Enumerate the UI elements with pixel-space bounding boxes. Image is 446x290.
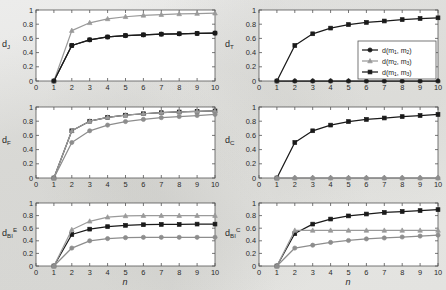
y-axis-label-subscript: F — [7, 139, 11, 146]
series-marker-circle — [418, 234, 422, 238]
y-tick-label: 1 — [29, 199, 33, 208]
series-marker-circle — [52, 176, 56, 180]
series-marker-circle — [52, 79, 56, 83]
series-marker-circle — [213, 236, 217, 240]
y-tick-label: 0.6 — [246, 131, 256, 140]
series-marker-circle — [141, 33, 145, 37]
x-tick-label: 2 — [293, 180, 297, 189]
y-tick-label: 0 — [252, 77, 256, 86]
chart-bottom-right: 01234567891000.20.40.60.81 — [223, 193, 446, 290]
x-tick-label: 2 — [70, 268, 74, 277]
y-tick-label: 0.8 — [246, 212, 256, 221]
y-tick-label: 0.8 — [246, 20, 256, 29]
y-axis-label: dBIE — [2, 229, 17, 238]
x-tick-label: 6 — [364, 268, 368, 277]
series-marker-square — [347, 214, 351, 218]
series-marker-circle — [275, 79, 279, 83]
y-tick-label: 0.4 — [23, 48, 33, 57]
x-tick-label: 9 — [418, 268, 422, 277]
x-tick-label: 1 — [52, 268, 56, 277]
x-tick-label: 3 — [311, 180, 315, 189]
x-tick-label: 7 — [382, 268, 386, 277]
y-axis-label: dF — [2, 136, 11, 145]
series-marker-circle — [159, 115, 163, 119]
x-tick-label: 5 — [123, 83, 127, 92]
x-tick-label: 3 — [88, 180, 92, 189]
series-marker-square — [436, 112, 440, 116]
x-tick-label: 6 — [141, 83, 145, 92]
series-marker-circle — [311, 243, 315, 247]
plot-area-background — [36, 107, 215, 178]
y-tick-label: 0.8 — [23, 212, 33, 221]
y-tick-label: 1 — [29, 6, 33, 15]
series-marker-square — [365, 212, 369, 216]
x-tick-label: 8 — [177, 268, 181, 277]
series-marker-circle — [275, 264, 279, 268]
y-tick-label: 0 — [29, 262, 33, 271]
series-marker-square — [329, 26, 333, 30]
series-marker-square — [418, 209, 422, 213]
y-tick-label: 0.2 — [246, 62, 256, 71]
x-tick-label: 9 — [195, 83, 199, 92]
x-tick-label: 2 — [293, 83, 297, 92]
y-tick-label: 0.6 — [246, 34, 256, 43]
series-marker-circle — [329, 176, 333, 180]
series-marker-square — [311, 32, 315, 36]
series-marker-circle — [382, 236, 386, 240]
series-marker-circle — [346, 176, 350, 180]
series-marker-circle — [400, 79, 404, 83]
panel-d-bi-e: 01234567891000.20.40.60.81dBIEn — [0, 193, 223, 290]
y-tick-label: 0 — [29, 77, 33, 86]
chart-bottom-left: 01234567891000.20.40.60.81 — [0, 193, 223, 290]
y-axis-label-subscript: C — [230, 139, 234, 146]
y-tick-label: 1 — [29, 102, 33, 111]
series-marker-circle — [311, 176, 315, 180]
series-marker-circle — [382, 176, 386, 180]
y-tick-label: 0.2 — [246, 159, 256, 168]
y-tick-label: 0.4 — [23, 237, 33, 246]
y-tick-label: 1 — [252, 199, 256, 208]
series-marker-circle — [400, 176, 404, 180]
series-marker-circle — [329, 241, 333, 245]
x-tick-label: 5 — [346, 268, 350, 277]
series-marker-circle — [195, 31, 199, 35]
chart-top-right: 01234567891000.20.40.60.81d(m1, m2)d(m2,… — [223, 0, 446, 97]
y-tick-label: 0.8 — [246, 116, 256, 125]
y-tick-label: 0.6 — [23, 224, 33, 233]
series-marker-square — [400, 18, 404, 22]
series-marker-square — [347, 119, 351, 123]
series-marker-circle — [141, 117, 145, 121]
series-marker-circle — [88, 128, 92, 132]
legend-marker-square — [368, 70, 372, 74]
x-tick-label: 8 — [400, 180, 404, 189]
series-marker-circle — [293, 246, 297, 250]
series-marker-circle — [329, 79, 333, 83]
series-marker-circle — [346, 239, 350, 243]
y-tick-label: 0.8 — [23, 116, 33, 125]
x-tick-label: 0 — [257, 83, 261, 92]
x-tick-label: 5 — [123, 180, 127, 189]
series-marker-circle — [70, 246, 74, 250]
x-tick-label: 5 — [346, 180, 350, 189]
series-marker-circle — [106, 123, 110, 127]
series-marker-circle — [70, 43, 74, 47]
y-tick-label: 0.6 — [246, 224, 256, 233]
series-marker-square — [365, 21, 369, 25]
panel-d-t: 01234567891000.20.40.60.81d(m1, m2)d(m2,… — [223, 0, 446, 97]
series-marker-square — [159, 223, 163, 227]
series-marker-square — [311, 223, 315, 227]
series-marker-circle — [364, 79, 368, 83]
series-marker-square — [436, 16, 440, 20]
x-tick-label: 4 — [329, 83, 333, 92]
series-marker-square — [311, 129, 315, 133]
series-marker-circle — [293, 176, 297, 180]
series-marker-square — [213, 223, 217, 227]
series-marker-square — [347, 23, 351, 27]
series-marker-square — [124, 224, 128, 228]
x-axis-label: n — [123, 277, 128, 287]
legend-marker-circle — [368, 48, 372, 52]
chart-top-left: 01234567891000.20.40.60.81 — [0, 0, 223, 97]
y-tick-label: 0 — [252, 262, 256, 271]
x-tick-label: 1 — [275, 180, 279, 189]
x-tick-label: 5 — [123, 268, 127, 277]
